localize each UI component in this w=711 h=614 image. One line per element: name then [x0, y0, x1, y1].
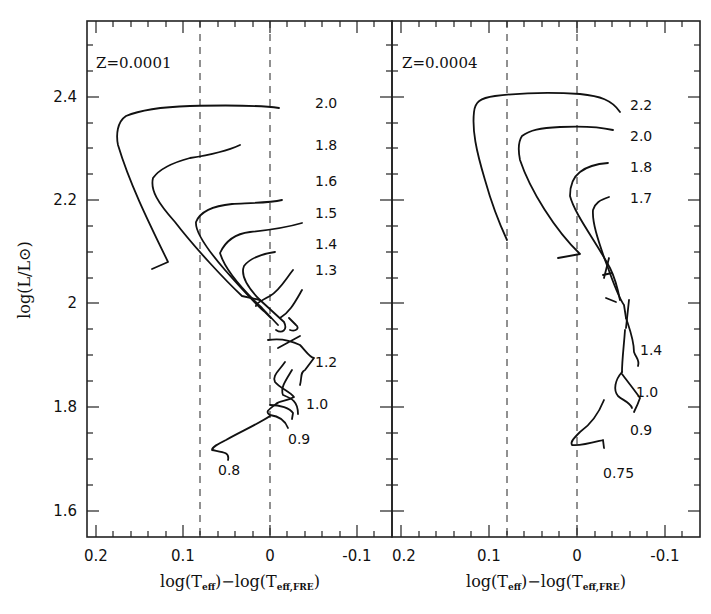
track-label: 0.8 [218, 462, 240, 478]
track-0.9 [571, 400, 604, 448]
track-label: 1.6 [315, 173, 337, 189]
track-label: 2.2 [630, 97, 652, 113]
svg-text:0.2: 0.2 [84, 547, 108, 565]
svg-text:0.2: 0.2 [392, 547, 416, 565]
right-y-ticks [380, 45, 700, 511]
svg-text:1.6: 1.6 [53, 502, 77, 520]
track-label: 1.8 [630, 159, 652, 175]
track-label: 1.8 [315, 137, 337, 153]
svg-text:0.1: 0.1 [477, 547, 501, 565]
track-2.2 [473, 93, 620, 240]
y-tick-labels: 2.4 2.2 2 1.8 1.6 [53, 88, 77, 520]
track-1.3 [256, 270, 302, 331]
svg-text:2.4: 2.4 [53, 88, 77, 106]
track-1.4 [622, 318, 639, 372]
svg-text:1.8: 1.8 [53, 398, 77, 416]
track-label: 1.7 [630, 190, 652, 206]
track-label: 0.9 [288, 431, 310, 447]
hr-diagram-figure: Z=0.0001 2.0 1.8 1.6 1.5 1.4 1.3 1.2 1.0… [0, 0, 711, 614]
track-label: 1.0 [636, 384, 658, 400]
x-axis-label-right: log(Teff)−log(Teff,FRE) [466, 572, 626, 593]
svg-text:2: 2 [67, 294, 77, 312]
right-panel: Z=0.0004 2.2 2.0 1.8 1.7 1.4 1.0 0.9 0.7… [380, 21, 700, 537]
track-label: 2.0 [315, 95, 337, 111]
left-tracks [117, 106, 314, 460]
track-0.9b [270, 405, 293, 419]
left-panel-title: Z=0.0001 [96, 54, 171, 72]
svg-text:0: 0 [572, 547, 582, 565]
track-label: 1.4 [315, 236, 337, 252]
left-track-labels: 2.0 1.8 1.6 1.5 1.4 1.3 1.2 1.0 0.9 0.8 [218, 95, 337, 478]
svg-text:-0.1: -0.1 [650, 547, 679, 565]
svg-text:-0.1: -0.1 [342, 547, 371, 565]
track-1.6 [196, 200, 282, 318]
x-tick-labels-left: 0.2 0.1 0 -0.1 [84, 547, 372, 565]
track-2.0 [519, 127, 613, 258]
track-label: 2.0 [630, 128, 652, 144]
right-tracks [473, 93, 640, 448]
track-2.0 [117, 106, 279, 269]
x-tick-labels-right: 0.2 0.1 0 -0.1 [392, 547, 680, 565]
track-1.4 [243, 252, 285, 332]
left-panel-frame [87, 21, 392, 537]
track-label: 1.4 [640, 342, 662, 358]
left-panel: Z=0.0001 2.0 1.8 1.6 1.5 1.4 1.3 1.2 1.0… [87, 21, 392, 537]
track-label: 0.75 [603, 465, 634, 481]
svg-text:2.2: 2.2 [53, 191, 77, 209]
right-track-labels: 2.2 2.0 1.8 1.7 1.4 1.0 0.9 0.75 [603, 97, 662, 481]
y-axis-label: log(L/L⊙) [15, 241, 34, 319]
left-y-ticks [87, 45, 99, 511]
right-panel-title: Z=0.0004 [402, 54, 477, 72]
right-panel-frame [392, 21, 700, 537]
track-label: 1.3 [315, 262, 337, 278]
track-label: 0.9 [630, 422, 652, 438]
track-label: 1.5 [315, 205, 337, 221]
track-0.9 [212, 416, 270, 460]
svg-text:0.1: 0.1 [171, 547, 195, 565]
track-label: 1.0 [306, 396, 328, 412]
x-axis-label-left: log(Teff)−log(Teff,FRE) [160, 572, 320, 593]
svg-text:0: 0 [265, 547, 275, 565]
track-label: 1.2 [315, 354, 337, 370]
